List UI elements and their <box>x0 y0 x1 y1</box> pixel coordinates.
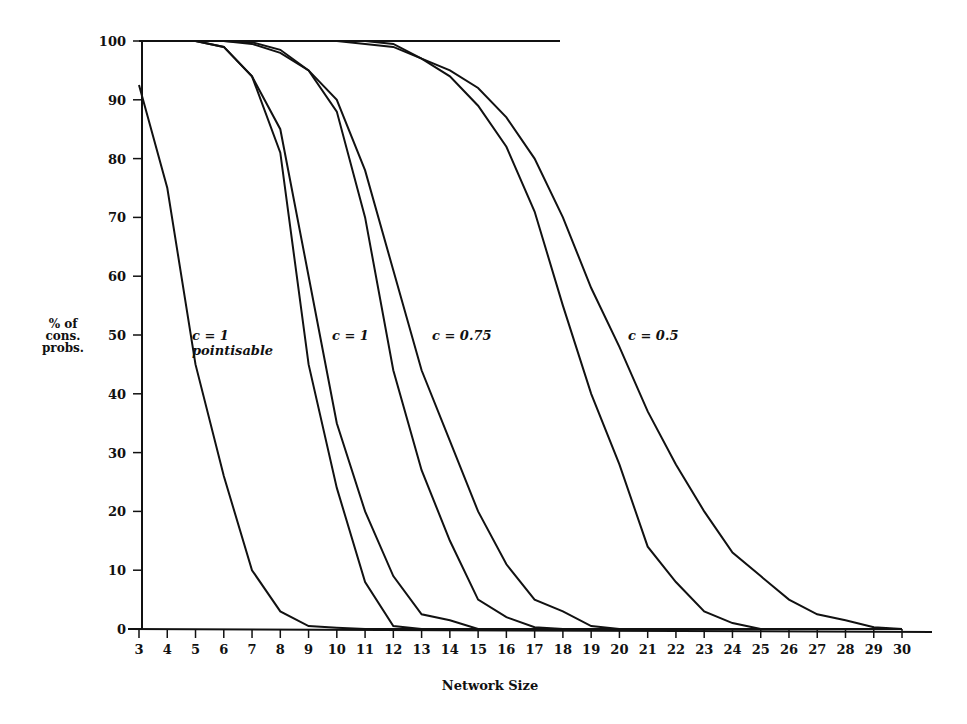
x-tick-label: 18 <box>554 642 572 657</box>
line-chart: 0102030405060708090100345678910111213141… <box>0 0 967 724</box>
annotation-c075: c = 0.75 <box>432 328 492 343</box>
x-tick-label: 28 <box>836 642 854 657</box>
x-tick-label: 5 <box>191 642 200 657</box>
x-tick-label: 20 <box>610 642 628 657</box>
y-tick-label: 50 <box>108 328 126 343</box>
x-tick-label: 11 <box>356 642 374 657</box>
annotation-c1-pointisable: c = 1 pointisable <box>192 328 273 358</box>
y-axis-label: % of cons. probs. <box>28 318 98 354</box>
x-tick-label: 6 <box>219 642 228 657</box>
x-tick-label: 4 <box>163 642 172 657</box>
y-tick-label: 10 <box>108 563 126 578</box>
y-tick-label: 20 <box>108 504 126 519</box>
x-tick-label: 29 <box>865 642 883 657</box>
x-tick-label: 14 <box>441 642 459 657</box>
x-tick-label: 21 <box>639 642 657 657</box>
x-tick-label: 25 <box>752 642 770 657</box>
y-axis-label-line: probs. <box>28 342 98 354</box>
x-tick-label: 22 <box>667 642 685 657</box>
x-tick-label: 13 <box>413 642 431 657</box>
x-tick-label: 9 <box>304 642 313 657</box>
x-tick-label: 30 <box>893 642 911 657</box>
x-tick-label: 17 <box>526 642 544 657</box>
x-tick-label: 12 <box>384 642 402 657</box>
x-tick-label: 15 <box>469 642 487 657</box>
x-tick-label: 26 <box>780 642 798 657</box>
y-tick-label: 0 <box>117 622 126 637</box>
x-tick-label: 3 <box>134 642 143 657</box>
x-tick-label: 23 <box>695 642 713 657</box>
y-tick-label: 40 <box>108 387 126 402</box>
x-tick-label: 24 <box>723 642 741 657</box>
x-tick-label: 10 <box>328 642 346 657</box>
y-tick-label: 90 <box>108 93 126 108</box>
y-tick-label: 30 <box>108 446 126 461</box>
annotation-c1: c = 1 <box>332 328 369 343</box>
x-tick-label: 16 <box>497 642 515 657</box>
annotation-subtext: pointisable <box>192 343 273 358</box>
annotation-text: c = 1 <box>192 328 229 343</box>
x-tick-label: 19 <box>582 642 600 657</box>
annotation-c05: c = 0.5 <box>628 328 678 343</box>
x-axis-label: Network Size <box>420 678 560 693</box>
x-tick-label: 7 <box>248 642 257 657</box>
x-tick-label: 27 <box>808 642 826 657</box>
y-tick-label: 80 <box>108 152 126 167</box>
y-tick-label: 100 <box>99 34 126 49</box>
y-tick-label: 60 <box>108 269 126 284</box>
y-tick-label: 70 <box>108 210 126 225</box>
x-tick-label: 8 <box>276 642 285 657</box>
